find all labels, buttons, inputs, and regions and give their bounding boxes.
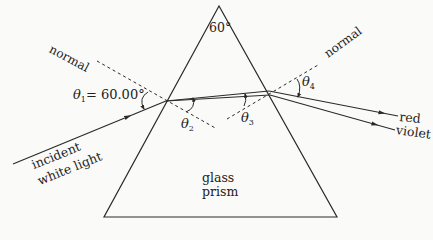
theta1-label: θ1= 60.00° [73, 88, 145, 104]
apex-angle-label: 60° [209, 22, 231, 35]
theta4-symbol: θ [302, 74, 310, 89]
theta4-subscript: 4 [310, 82, 315, 91]
prism-label-line1: glass [202, 172, 234, 185]
prism-label-line2: prism [202, 186, 238, 199]
theta1-value: = 60.00° [86, 87, 145, 102]
theta4-label: θ4 [302, 75, 315, 91]
theta3-subscript: 3 [249, 118, 254, 127]
theta3-label: θ3 [241, 111, 254, 127]
theta2-symbol: θ [181, 116, 189, 131]
theta2-label: θ2 [181, 117, 194, 133]
violet-ray-out [270, 95, 395, 130]
theta3-symbol: θ [241, 110, 249, 125]
theta2-subscript: 2 [189, 124, 194, 133]
theta4-arc-icon [297, 79, 300, 97]
theta1-symbol: θ [73, 87, 81, 102]
theta3-arc-icon [244, 94, 246, 106]
